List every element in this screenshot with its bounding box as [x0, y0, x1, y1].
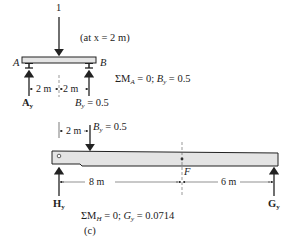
support-b-label: B — [100, 58, 106, 69]
hinge-h-icon — [57, 154, 61, 158]
point-f-label: F — [184, 167, 190, 178]
support-a-icon — [25, 63, 33, 68]
top-dim-left: 2 m — [36, 84, 51, 94]
dim-8m: 8 m — [89, 177, 104, 187]
bottom-beam — [52, 151, 278, 166]
reaction-a-label: Ay — [22, 98, 33, 110]
top-load-note: (at x = 2 m) — [80, 33, 130, 44]
support-b-icon — [85, 63, 93, 68]
top-beam — [22, 57, 96, 63]
bottom-dim-left: 2 m — [66, 126, 81, 136]
figure-caption: (c) — [84, 226, 96, 237]
top-dim-right: 2 m — [63, 84, 78, 94]
reaction-b-label: By = 0.5 — [75, 98, 109, 110]
reaction-g-label: Gy — [268, 199, 280, 211]
support-a-label: A — [13, 58, 19, 69]
top-equation: ΣMA = 0; By = 0.5 — [115, 74, 191, 86]
bottom-load-label: By = 0.5 — [93, 122, 127, 134]
reaction-h-label: Hy — [53, 199, 65, 211]
dim-6m: 6 m — [221, 177, 236, 187]
bottom-equation: ΣMH = 0; Gy = 0.0714 — [81, 211, 174, 223]
top-load-value: 1 — [56, 3, 61, 14]
